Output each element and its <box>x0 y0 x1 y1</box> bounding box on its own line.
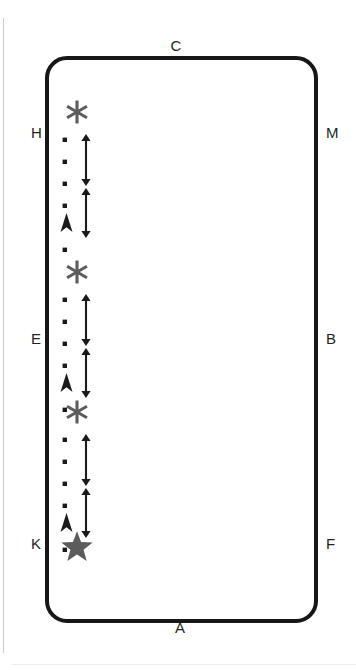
asterisk-marker <box>64 259 90 285</box>
left-vertical-rule <box>3 18 4 653</box>
double-headed-arrow-upper <box>78 434 94 486</box>
dot-marker <box>62 481 68 487</box>
symbol-column <box>55 90 105 590</box>
edge-label-bottom: A <box>175 620 185 635</box>
up-chevron-marker <box>60 213 73 232</box>
dot-marker <box>62 137 68 143</box>
dot-marker <box>62 459 68 465</box>
dot-marker <box>62 297 68 303</box>
edge-label-right-lower: F <box>326 536 335 551</box>
double-headed-arrow-upper <box>78 294 94 346</box>
edge-label-top: C <box>170 38 181 53</box>
asterisk-marker <box>64 399 90 425</box>
dot-marker <box>62 503 68 509</box>
edge-label-right-upper: M <box>326 125 339 140</box>
edge-label-right-middle: B <box>326 331 336 346</box>
dot-marker <box>62 363 68 369</box>
double-headed-arrow-lower <box>78 348 94 398</box>
dot-marker <box>62 181 68 187</box>
up-chevron-marker <box>60 373 73 392</box>
edge-label-left-upper: H <box>31 125 42 140</box>
double-headed-arrow-upper <box>78 134 94 186</box>
dot-marker <box>62 437 68 443</box>
diagram-canvas: C A H M E B K F <box>0 0 356 670</box>
dot-marker <box>62 159 68 165</box>
bottom-horizontal-rule <box>12 664 356 665</box>
dot-marker <box>62 247 68 253</box>
edge-label-left-lower: K <box>31 536 41 551</box>
dot-marker <box>62 341 68 347</box>
asterisk-marker <box>64 99 90 125</box>
dot-marker <box>62 203 68 209</box>
edge-label-left-middle: E <box>31 331 41 346</box>
up-chevron-marker <box>60 513 73 532</box>
filled-star-marker <box>60 530 94 563</box>
double-headed-arrow-lower <box>78 188 94 238</box>
dot-marker <box>62 319 68 325</box>
